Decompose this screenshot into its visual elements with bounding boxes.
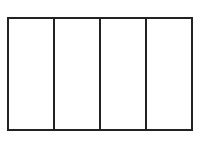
column-cell-1 (9, 19, 55, 129)
column-cell-2 (55, 19, 101, 129)
column-cell-3 (101, 19, 147, 129)
divided-rectangle (7, 17, 193, 131)
column-cell-4 (147, 19, 191, 129)
